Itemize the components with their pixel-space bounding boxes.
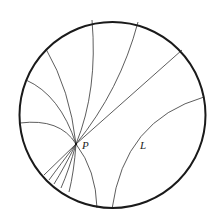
geodesic-bottom [76,144,97,208]
geodesic-top-1 [76,20,93,144]
geodesic-fan-1 [49,144,76,180]
geodesic-diameter [44,50,182,175]
geodesic-top-left [46,49,76,144]
label-P: P [81,139,89,151]
disk-boundary [20,22,206,208]
diagram-canvas: P L [0,0,220,222]
poincare-disk-diagram: P L [0,0,220,222]
geodesic-left-lower [20,122,76,144]
line-L [112,97,204,209]
label-L: L [139,139,146,151]
geodesic-top-2 [76,22,138,144]
point-P-marker [75,143,77,145]
